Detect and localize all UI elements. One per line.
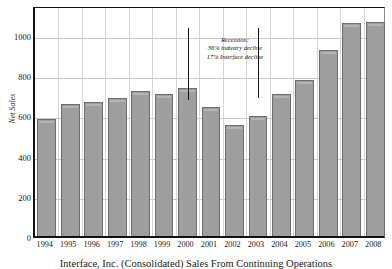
gridline-vertical — [58, 8, 59, 236]
x-tick-label: 1999 — [150, 241, 173, 249]
bar — [366, 22, 385, 236]
y-axis-title: Net Sales — [8, 79, 17, 139]
y-tick-label: 200 — [0, 194, 31, 203]
gridline-vertical — [340, 8, 341, 236]
x-tick-label: 2001 — [197, 241, 220, 249]
bar — [202, 107, 221, 236]
y-tick-label: 1000 — [0, 33, 31, 42]
x-tick-label: 2004 — [268, 241, 291, 249]
bar — [272, 94, 291, 236]
gridline-vertical — [152, 8, 153, 236]
gridline-vertical — [293, 8, 294, 236]
x-tick-label: 2008 — [362, 241, 385, 249]
gridline-vertical — [82, 8, 83, 236]
bar — [84, 102, 103, 236]
bar — [295, 80, 314, 236]
bar — [178, 88, 197, 236]
x-tick-label: 2002 — [221, 241, 244, 249]
recession-annotation: Recession: 36% industry decline 17% Inte… — [187, 36, 283, 61]
gridline-vertical — [129, 8, 130, 236]
chart-caption: Interface, Inc. (Consolidated) Sales Fro… — [0, 258, 392, 269]
chart-figure: Net Sales Recession: 36% industry declin… — [0, 0, 392, 269]
bar — [155, 94, 174, 236]
plot-area: Recession: 36% industry decline 17% Inte… — [33, 7, 385, 238]
x-tick-label: 2000 — [174, 241, 197, 249]
bar — [108, 98, 127, 236]
annotation-line-1: Recession: — [187, 36, 283, 44]
x-tick-label: 1996 — [80, 241, 103, 249]
x-axis-ticks: 1994199519961997199819992000200120022003… — [33, 241, 385, 253]
x-tick-label: 1997 — [103, 241, 126, 249]
x-tick-label: 1995 — [56, 241, 79, 249]
gridline-vertical — [364, 8, 365, 236]
gridline-vertical — [176, 8, 177, 236]
bar — [131, 91, 150, 236]
x-tick-label: 2005 — [291, 241, 314, 249]
gridline-vertical — [105, 8, 106, 236]
bar — [249, 116, 268, 236]
x-tick-label: 2007 — [338, 241, 361, 249]
x-tick-label: 1998 — [127, 241, 150, 249]
annotation-line-3: 17% Interface decline — [187, 53, 283, 61]
bar — [61, 104, 80, 236]
annotation-line-2: 36% industry decline — [187, 44, 283, 52]
bar — [37, 119, 56, 237]
bar — [319, 50, 338, 236]
gridline-vertical — [317, 8, 318, 236]
x-tick-label: 1994 — [33, 241, 56, 249]
x-tick-label: 2006 — [315, 241, 338, 249]
y-tick-label: 800 — [0, 73, 31, 82]
plot-inner: Recession: 36% industry decline 17% Inte… — [35, 8, 384, 236]
bar — [342, 23, 361, 236]
x-tick-label: 2003 — [244, 241, 267, 249]
bar — [225, 125, 244, 236]
y-tick-label: 0 — [0, 234, 31, 243]
y-tick-label: 400 — [0, 154, 31, 163]
y-tick-label: 600 — [0, 113, 31, 122]
